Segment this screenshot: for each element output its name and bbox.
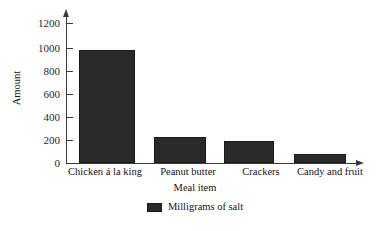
x-axis-line <box>66 163 358 164</box>
bar-candy-and-fruit <box>294 154 346 163</box>
y-axis-title: Amount <box>11 58 23 118</box>
x-category-label-4: Candy and fruit <box>281 166 379 178</box>
legend-label: Milligrams of salt <box>168 201 243 213</box>
bar-peanut-butter <box>154 137 206 163</box>
legend-swatch-icon <box>147 203 162 212</box>
y-tick-label: 0 <box>18 157 60 169</box>
bar-chart: 1200 1000 800 600 400 200 0 Chicken á la… <box>0 0 390 231</box>
y-tick-label: 600 <box>18 88 60 100</box>
y-tick-label: 1200 <box>18 17 60 29</box>
x-axis-title: Meal item <box>0 182 390 194</box>
chart-legend: Milligrams of salt <box>0 201 390 213</box>
y-tick-label: 1000 <box>18 42 60 54</box>
bars-layer <box>66 23 358 163</box>
bar-chicken-a-la-king <box>79 50 135 163</box>
y-tick-label: 200 <box>18 134 60 146</box>
y-axis-arrow-icon <box>63 9 69 17</box>
y-tick-label: 800 <box>18 65 60 77</box>
y-tick-label: 400 <box>18 111 60 123</box>
bar-crackers <box>224 141 274 163</box>
